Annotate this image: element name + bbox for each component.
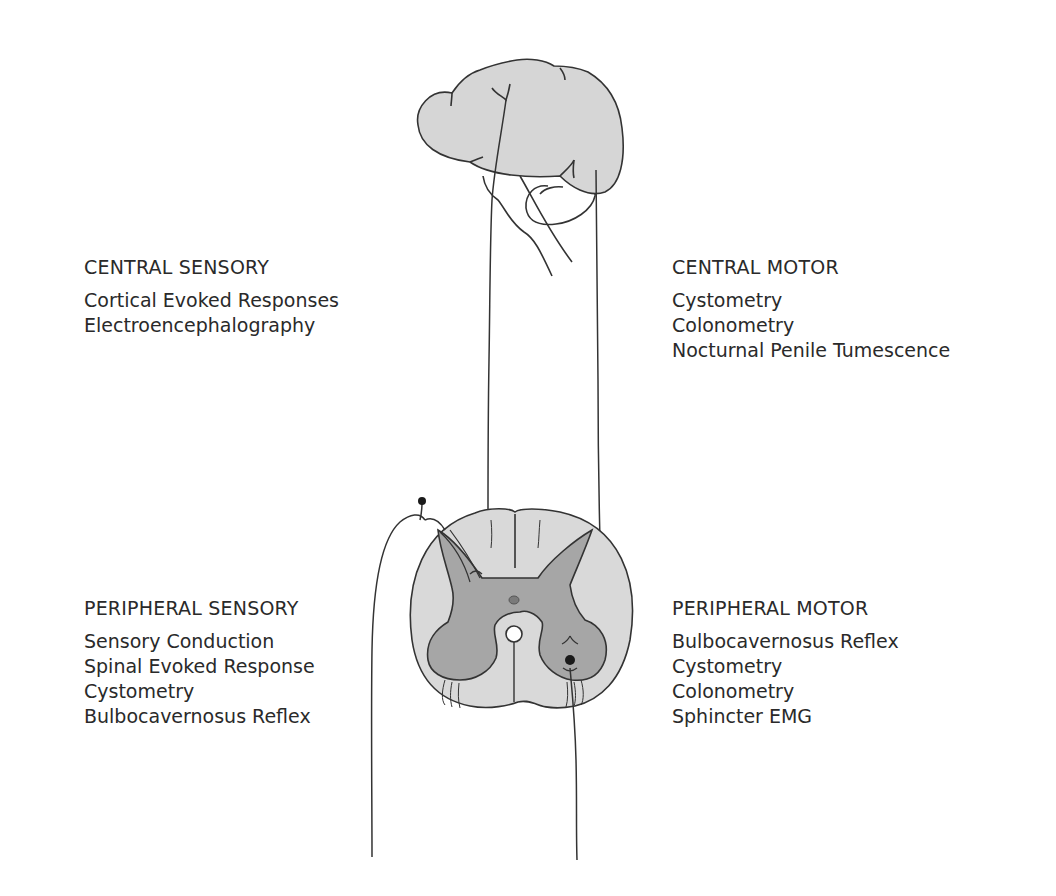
diagram-canvas: CENTRAL SENSORY Cortical Evoked Response… (0, 0, 1056, 896)
peripheral-motor-list: Bulbocavernosus Reflex Cystometry Colono… (672, 629, 899, 729)
central-sensory-list: Cortical Evoked Responses Electroencepha… (84, 288, 339, 338)
list-item: Sensory Conduction (84, 629, 315, 654)
central-canal (506, 626, 522, 642)
list-item: Cystometry (672, 654, 899, 679)
list-item: Bulbocavernosus Reflex (84, 704, 315, 729)
list-item: Colonometry (672, 679, 899, 704)
list-item: Spinal Evoked Response (84, 654, 315, 679)
list-item: Sphincter EMG (672, 704, 899, 729)
central-sensory-title: CENTRAL SENSORY (84, 256, 339, 278)
central-motor-title: CENTRAL MOTOR (672, 256, 950, 278)
central-motor-group: CENTRAL MOTOR Cystometry Colonometry Noc… (672, 256, 950, 363)
list-item: Nocturnal Penile Tumescence (672, 338, 950, 363)
list-item: Cystometry (84, 679, 315, 704)
dorsal-root-ganglion-dot (418, 497, 426, 505)
central-sensory-group: CENTRAL SENSORY Cortical Evoked Response… (84, 256, 339, 338)
cerebrum (418, 59, 624, 193)
anatomy-illustration (0, 0, 1056, 896)
peripheral-motor-title: PERIPHERAL MOTOR (672, 597, 899, 619)
motor-neuron-dot (565, 655, 575, 665)
list-item: Electroencephalography (84, 313, 339, 338)
peripheral-sensory-title: PERIPHERAL SENSORY (84, 597, 315, 619)
peripheral-sensory-group: PERIPHERAL SENSORY Sensory Conduction Sp… (84, 597, 315, 729)
brain-illustration (418, 59, 624, 276)
list-item: Cystometry (672, 288, 950, 313)
list-item: Cortical Evoked Responses (84, 288, 339, 313)
peripheral-motor-group: PERIPHERAL MOTOR Bulbocavernosus Reflex … (672, 597, 899, 729)
list-item: Colonometry (672, 313, 950, 338)
spinal-cord-illustration (410, 509, 632, 708)
list-item: Bulbocavernosus Reflex (672, 629, 899, 654)
gray-commissure-dot (509, 596, 519, 604)
central-motor-list: Cystometry Colonometry Nocturnal Penile … (672, 288, 950, 363)
peripheral-sensory-list: Sensory Conduction Spinal Evoked Respons… (84, 629, 315, 729)
